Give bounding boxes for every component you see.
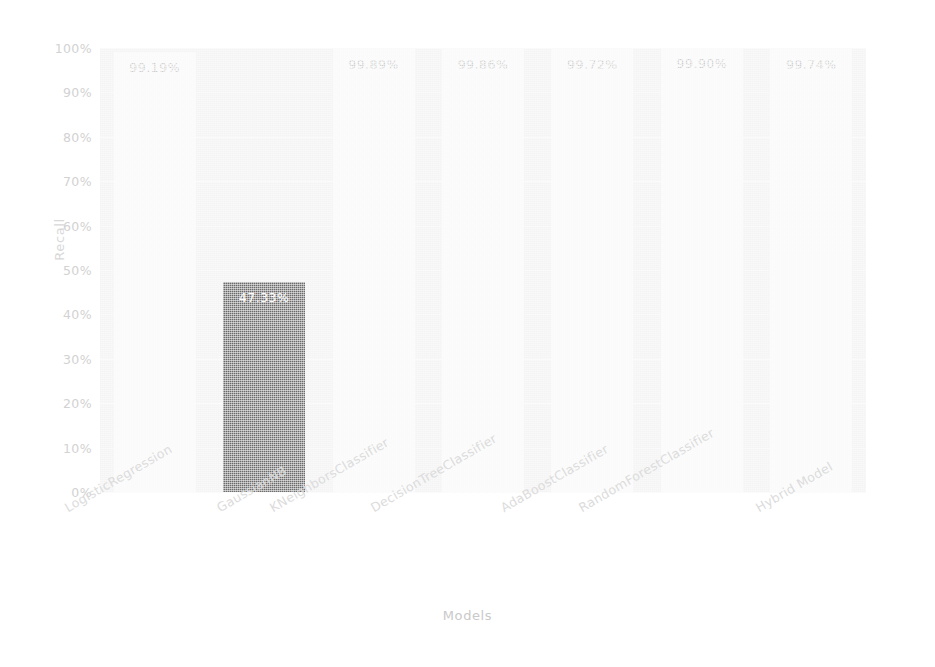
bar-value-label: 99.89%: [348, 57, 399, 72]
y-axis-tick-label: 40%: [32, 307, 92, 322]
bar-slot: 99.74%: [757, 48, 866, 492]
bar-slot: 99.86%: [428, 48, 537, 492]
bar-value-label: 99.90%: [677, 56, 728, 71]
bar: 99.72%: [551, 49, 633, 492]
bar: 99.74%: [770, 49, 852, 492]
y-axis-tick-label: 100%: [32, 41, 92, 56]
bar-slot: 99.90%: [647, 48, 756, 492]
bar-slot: 99.72%: [538, 48, 647, 492]
y-axis-tick-label: 80%: [32, 129, 92, 144]
bar-value-label: 99.72%: [567, 57, 618, 72]
bar-slot: 99.89%: [319, 48, 428, 492]
bar: 99.19%: [114, 52, 196, 492]
y-axis-tick-label: 30%: [32, 351, 92, 366]
y-axis-tick-label: 60%: [32, 218, 92, 233]
x-axis-title: Models: [0, 608, 935, 623]
bar-value-label: 47.33%: [239, 290, 290, 305]
y-axis-tick-label: 10%: [32, 440, 92, 455]
y-axis-tick-label: 50%: [32, 263, 92, 278]
bar-slot: 99.19%: [100, 48, 209, 492]
x-axis-tick-labels: LogisticRegressionGaussianNBKNeighborsCl…: [100, 492, 866, 612]
y-axis-tick-label: 70%: [32, 174, 92, 189]
bar: 99.86%: [442, 49, 524, 492]
plot-area: 99.19%47.33%99.89%99.86%99.72%99.90%99.7…: [100, 48, 866, 492]
y-axis-tick-label: 90%: [32, 85, 92, 100]
bar-value-label: 99.19%: [129, 60, 180, 75]
bar: 47.33%: [223, 282, 305, 492]
bar-value-label: 99.86%: [458, 57, 509, 72]
bar-slot: 47.33%: [209, 48, 318, 492]
bar-value-label: 99.74%: [786, 57, 837, 72]
y-axis-tick-label: 20%: [32, 396, 92, 411]
bar-chart-figure: Recall 0%10%20%30%40%50%60%70%80%90%100%…: [0, 0, 935, 667]
bar: 99.90%: [661, 48, 743, 492]
bar: 99.89%: [333, 49, 415, 493]
